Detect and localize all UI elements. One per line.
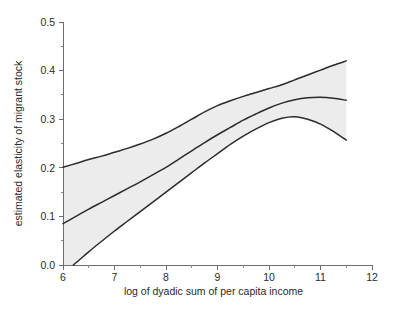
y-tick-label: 0.4 [40,64,55,76]
y-tick-label: 0.3 [40,113,55,125]
x-tick-label: 12 [366,271,378,283]
y-axis-title: estimated elasticity of migrant stock [12,60,24,226]
x-tick-label: 10 [263,271,275,283]
x-tick-label: 8 [163,271,169,283]
y-tick-label: 0.5 [40,16,55,28]
chart-figure: 67891011120.00.10.20.30.40.5 log of dyad… [0,0,418,310]
x-tick-label: 6 [60,271,66,283]
x-tick-label: 7 [112,271,118,283]
x-tick-label: 11 [315,271,326,283]
x-tick-label: 9 [215,271,221,283]
y-tick-label: 0.2 [40,162,55,174]
y-tick-label: 0.0 [40,259,55,271]
y-tick-label: 0.1 [40,210,55,222]
x-axis-title: log of dyadic sum of per capita income [124,285,303,297]
